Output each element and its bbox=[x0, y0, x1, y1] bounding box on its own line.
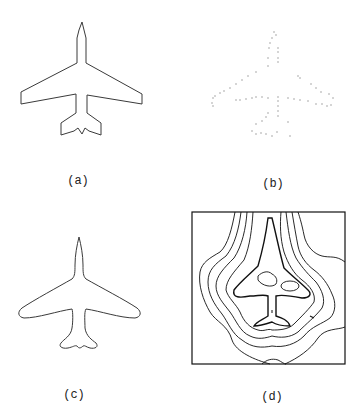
contour-frame bbox=[192, 212, 345, 364]
panel-b-edge-points bbox=[211, 31, 333, 136]
panel-c-airplane bbox=[19, 237, 140, 348]
panel-a-airplane bbox=[21, 22, 142, 135]
panel-d-label: (d) bbox=[261, 390, 283, 404]
panel-c-label: (c) bbox=[63, 388, 85, 402]
panel-d-contour-map bbox=[192, 212, 345, 364]
panel-b-label: (b) bbox=[262, 177, 284, 191]
panel-a-label: (a) bbox=[67, 174, 89, 188]
figure-canvas bbox=[0, 0, 351, 417]
